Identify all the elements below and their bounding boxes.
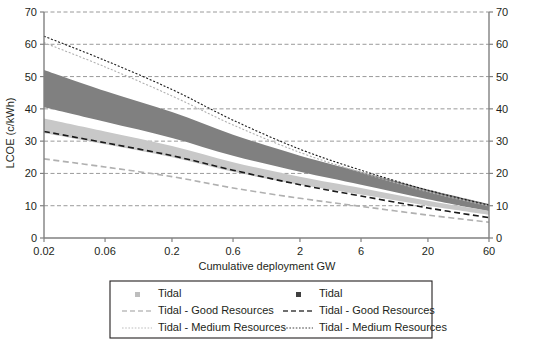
y-tick-right-0: 0 — [496, 232, 502, 244]
x-tick-20: 20 — [422, 245, 434, 257]
y-tick-left-70: 70 — [25, 6, 37, 18]
y-tick-left-50: 50 — [25, 71, 37, 83]
x-tick-0.6: 0.6 — [225, 245, 240, 257]
x-axis-title: Cumulative deployment GW — [199, 260, 337, 272]
y-tick-left-0: 0 — [31, 232, 37, 244]
legend-square-icon — [296, 292, 301, 297]
x-tick-0.2: 0.2 — [164, 245, 179, 257]
x-tick-0.06: 0.06 — [94, 245, 115, 257]
legend-label: Tidal - Good Resources — [319, 304, 435, 316]
y-tick-left-40: 40 — [25, 103, 37, 115]
y-tick-right-20: 20 — [496, 167, 508, 179]
legend-square-icon — [135, 292, 140, 297]
legend-label: Tidal - Medium Resources — [319, 321, 447, 333]
y-tick-right-60: 60 — [496, 38, 508, 50]
y-tick-right-30: 30 — [496, 135, 508, 147]
y-tick-right-40: 40 — [496, 103, 508, 115]
y-tick-left-10: 10 — [25, 200, 37, 212]
y-tick-left-20: 20 — [25, 167, 37, 179]
legend-label: Tidal — [319, 287, 342, 299]
x-tick-2: 2 — [297, 245, 303, 257]
x-tick-0.02: 0.02 — [33, 245, 54, 257]
x-tick-6: 6 — [358, 245, 364, 257]
legend-label: Tidal - Good Resources — [158, 304, 274, 316]
y-tick-right-50: 50 — [496, 71, 508, 83]
legend: TidalTidal - Good ResourcesTidal - Mediu… — [110, 281, 447, 338]
y-tick-right-70: 70 — [496, 6, 508, 18]
y-tick-right-10: 10 — [496, 200, 508, 212]
chart-figure: 0010102020303040405050606070700.020.060.… — [0, 0, 541, 343]
x-tick-60: 60 — [483, 245, 495, 257]
legend-label: Tidal — [158, 287, 181, 299]
y-tick-left-30: 30 — [25, 135, 37, 147]
lcoe-chart: 0010102020303040405050606070700.020.060.… — [0, 0, 541, 343]
legend-label: Tidal - Medium Resources — [158, 321, 286, 333]
y-tick-left-60: 60 — [25, 38, 37, 50]
y-axis-title: LCOE (c/kWh) — [4, 98, 16, 169]
